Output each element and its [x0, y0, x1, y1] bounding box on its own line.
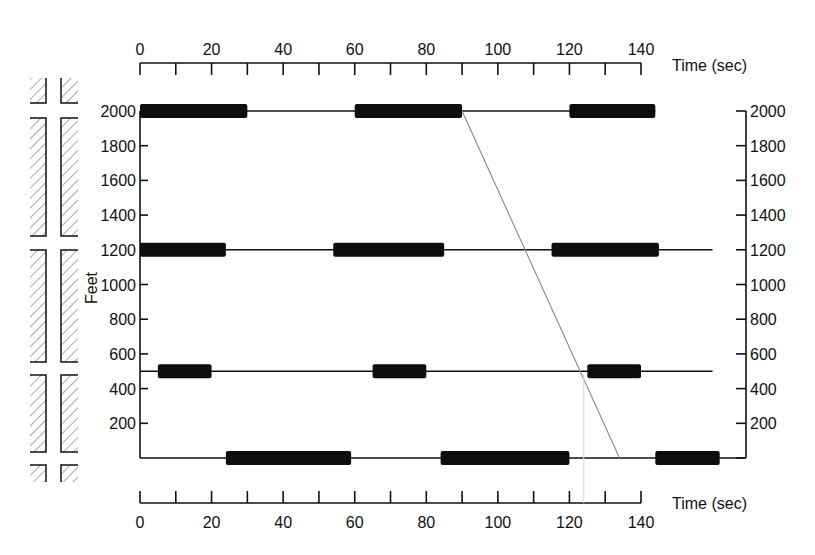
bottom-axis-tick-label: 40: [274, 514, 292, 531]
hatched-block-left: [30, 250, 46, 362]
bottom-axis-tick-label: 60: [346, 514, 364, 531]
red-phase-bar: [552, 243, 659, 257]
left-feet-axis: 200400600800100012001400160018002000: [100, 103, 148, 458]
left-axis-tick-label: 400: [109, 381, 136, 398]
left-axis-tick-label: 2000: [100, 103, 136, 120]
hatched-block-right: [61, 375, 78, 452]
red-phase-bar: [373, 364, 427, 378]
red-phase-bar: [655, 451, 719, 465]
left-axis-tick-label: 1800: [100, 138, 136, 155]
red-phase-bar: [333, 243, 444, 257]
city-block: [30, 375, 78, 452]
right-feet-axis: 200400600800100012001400160018002000: [736, 103, 786, 458]
street-map-graphic: [30, 78, 78, 482]
hatched-block-right: [61, 465, 78, 482]
top-axis-tick-label: 120: [556, 41, 583, 58]
top-axis-tick-label: 140: [628, 41, 655, 58]
bottom-axis-tick-label: 80: [417, 514, 435, 531]
right-axis-tick-label: 1400: [750, 207, 786, 224]
red-phase-bar: [158, 364, 212, 378]
right-axis-tick-label: 1800: [750, 138, 786, 155]
right-axis-tick-label: 1600: [750, 172, 786, 189]
hatched-block-left: [30, 465, 46, 482]
hatched-block-left: [30, 375, 46, 452]
vehicle-trajectory-line: [462, 111, 619, 458]
top-axis-tick-label: 20: [203, 41, 221, 58]
top-axis-title: Time (sec): [672, 57, 747, 74]
hatched-block-left: [30, 78, 46, 103]
left-axis-tick-label: 800: [109, 311, 136, 328]
left-axis-tick-label: 1200: [100, 242, 136, 259]
top-axis-tick-label: 60: [346, 41, 364, 58]
right-axis-tick-label: 1200: [750, 242, 786, 259]
bottom-axis-title: Time (sec): [672, 495, 747, 512]
bottom-axis-tick-label: 0: [136, 514, 145, 531]
red-phase-bar: [587, 364, 641, 378]
right-axis-tick-label: 800: [750, 311, 777, 328]
top-time-axis: 020406080100120140: [136, 41, 655, 75]
right-axis-tick-label: 200: [750, 415, 777, 432]
signal-timeline: [140, 243, 713, 257]
bottom-axis-tick-label: 100: [485, 514, 512, 531]
city-block: [30, 250, 78, 362]
left-axis-tick-label: 600: [109, 346, 136, 363]
bottom-axis-tick-label: 140: [628, 514, 655, 531]
red-phase-bar: [355, 104, 462, 118]
left-axis-tick-label: 200: [109, 415, 136, 432]
red-phase-bar: [569, 104, 655, 118]
right-axis-tick-label: 1000: [750, 277, 786, 294]
red-phase-bar: [441, 451, 570, 465]
left-axis-tick-label: 1000: [100, 277, 136, 294]
top-axis-tick-label: 80: [417, 41, 435, 58]
red-phase-bar: [140, 104, 247, 118]
right-axis-tick-label: 2000: [750, 103, 786, 120]
hatched-block-left: [30, 118, 46, 236]
signal-timeline: [140, 451, 745, 465]
red-phase-bar: [140, 243, 226, 257]
city-block: [30, 78, 78, 103]
signal-timelines: [140, 104, 745, 465]
left-axis-title: Feet: [83, 271, 100, 304]
time-space-diagram: 020406080100120140 020406080100120140 20…: [0, 0, 815, 555]
right-axis-tick-label: 400: [750, 381, 777, 398]
top-axis-tick-label: 0: [136, 41, 145, 58]
trajectory-annotations: [462, 111, 619, 503]
bottom-axis-tick-label: 20: [203, 514, 221, 531]
city-block: [30, 118, 78, 236]
left-axis-tick-label: 1600: [100, 172, 136, 189]
hatched-block-right: [61, 78, 78, 103]
signal-timeline: [140, 364, 713, 378]
top-axis-tick-label: 40: [274, 41, 292, 58]
left-axis-tick-label: 1400: [100, 207, 136, 224]
signal-timeline: [140, 104, 655, 118]
bottom-axis-tick-label: 120: [556, 514, 583, 531]
hatched-block-right: [61, 118, 78, 236]
hatched-block-right: [61, 250, 78, 362]
right-axis-tick-label: 600: [750, 346, 777, 363]
bottom-time-axis: 020406080100120140: [136, 491, 655, 531]
red-phase-bar: [226, 451, 351, 465]
top-axis-tick-label: 100: [485, 41, 512, 58]
city-block: [30, 465, 78, 482]
